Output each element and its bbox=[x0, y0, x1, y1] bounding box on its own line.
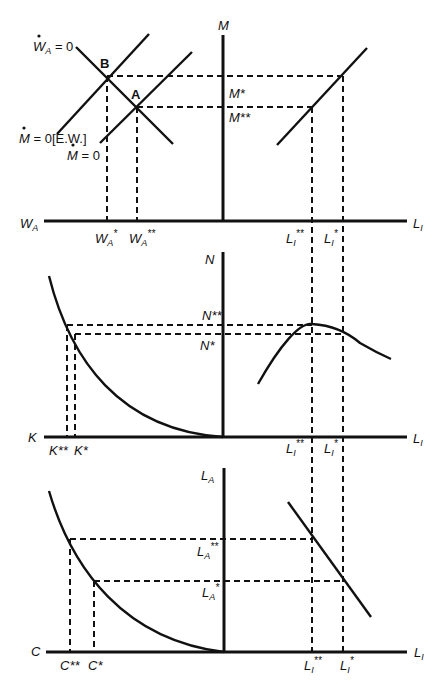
svg-text:M = 0[E.W.]: M = 0[E.W.] bbox=[19, 131, 87, 146]
panel-bottom: LA LA** LA* C C** C* LI LI** LI* bbox=[31, 468, 424, 675]
la-star-label: LA* bbox=[202, 582, 220, 602]
li-axis-label-bottom: LI bbox=[414, 645, 424, 662]
wa-axis-label: WA bbox=[20, 216, 38, 233]
li-dstar-label-top: LI** bbox=[286, 228, 305, 248]
n-li-curve bbox=[258, 324, 391, 384]
point-a-label: A bbox=[131, 87, 141, 102]
m-axis-label: M bbox=[218, 18, 229, 33]
li-axis-label-top: LI bbox=[413, 216, 423, 233]
m-dot-label: M = 0 bbox=[67, 143, 100, 163]
wa-dstar-label: WA** bbox=[129, 228, 156, 248]
c-la-curve bbox=[49, 491, 224, 652]
svg-text:WA = 0: WA = 0 bbox=[33, 39, 73, 56]
m-li-curve bbox=[277, 48, 367, 145]
li-star-label-bottom: LI* bbox=[340, 655, 355, 675]
k-dstar-label: K** bbox=[49, 443, 69, 458]
m-dot-zero-curve bbox=[100, 52, 192, 143]
wa-dot-label: WA = 0 bbox=[33, 34, 73, 56]
m-dstar-label: M** bbox=[229, 110, 251, 125]
k-star-label: K* bbox=[74, 443, 89, 458]
la-li-curve bbox=[288, 502, 371, 617]
n-axis-label: N bbox=[205, 252, 215, 267]
c-dstar-label: C** bbox=[60, 658, 80, 673]
c-star-label: C* bbox=[88, 658, 103, 673]
panel-middle: N N** N* K K** K* LI LI** LI* bbox=[28, 252, 423, 458]
svg-text:M = 0: M = 0 bbox=[67, 148, 100, 163]
n-dstar-label: N** bbox=[202, 308, 222, 323]
li-axis-label-middle: LI bbox=[413, 431, 423, 448]
wa-star-label: WA* bbox=[95, 228, 118, 248]
li-dstar-label-bottom: LI** bbox=[304, 655, 323, 675]
li-dstar-label-middle: LI** bbox=[286, 438, 305, 458]
n-star-label: N* bbox=[200, 338, 215, 353]
point-b-label: B bbox=[100, 56, 109, 71]
li-star-label-top: LI* bbox=[324, 228, 339, 248]
c-axis-label: C bbox=[31, 644, 41, 659]
three-panel-diagram: M WA = 0 B A M = 0[E.W.] M = 0 M* M** WA… bbox=[0, 0, 443, 684]
la-axis-label: LA bbox=[201, 468, 214, 485]
m-dot-ew-label: M = 0[E.W.] bbox=[19, 126, 87, 146]
la-dstar-label: LA** bbox=[197, 541, 219, 561]
k-axis-label: K bbox=[28, 430, 38, 445]
m-star-label: M* bbox=[229, 86, 246, 101]
li-star-label-middle: LI* bbox=[324, 438, 339, 458]
